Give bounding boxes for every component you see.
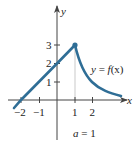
x-tick-label: 2 — [90, 106, 96, 118]
x-tick-label: −1 — [33, 106, 45, 118]
curve-label: y = f(x) — [90, 63, 124, 76]
y-tick-label: 1 — [46, 76, 52, 88]
function-graph: y x −2 −1 1 2 1 2 3 y = f(x) a = 1 — [0, 0, 134, 152]
y-axis-label: y — [60, 5, 66, 17]
x-tick-label: 1 — [72, 106, 78, 118]
x-tick-label: −2 — [14, 106, 26, 118]
peak-point — [72, 42, 77, 47]
y-tick-label: 2 — [46, 57, 52, 69]
x-axis-label: x — [126, 94, 132, 106]
y-tick-label: 3 — [46, 39, 52, 51]
parameter-label: a = 1 — [73, 127, 96, 139]
curve-linear-segment — [14, 45, 75, 108]
